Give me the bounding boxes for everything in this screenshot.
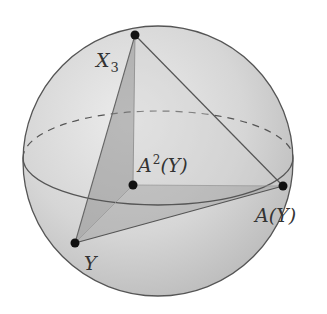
- sphere-diagram: X3 A2(Y) A(Y) Y: [0, 0, 327, 314]
- label-ay: A(Y): [253, 204, 296, 226]
- point-x3: [131, 31, 140, 40]
- point-y: [71, 239, 80, 248]
- point-a2y: [129, 181, 138, 190]
- point-ay: [279, 182, 288, 191]
- label-a2y: A2(Y): [136, 153, 188, 176]
